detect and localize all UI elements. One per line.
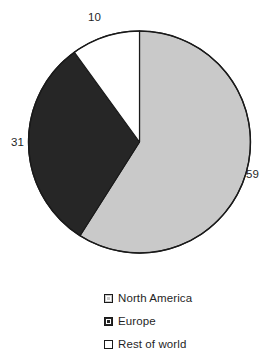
legend-label-north-america: North America xyxy=(118,292,192,305)
legend-label-rest-of-world: Rest of world xyxy=(118,338,186,351)
legend-swatch-icon-north-america xyxy=(104,294,113,303)
legend-label-europe: Europe xyxy=(118,315,156,328)
legend-item-rest-of-world: Rest of world xyxy=(104,336,254,352)
pie-svg xyxy=(0,0,273,270)
legend-item-north-america: North America xyxy=(104,290,254,306)
legend-swatch-icon-rest-of-world xyxy=(104,340,113,349)
pie-value-label-north-america: 59 xyxy=(246,168,259,181)
chart-legend: North America Europe Rest of world xyxy=(104,290,254,352)
pie-value-label-rest-of-world: 10 xyxy=(88,11,101,24)
pie-slice-group xyxy=(29,31,251,253)
pie-chart-figure: 10 31 59 North America Europe Rest of wo… xyxy=(0,0,273,359)
legend-swatch-icon-europe xyxy=(104,317,113,326)
legend-item-europe: Europe xyxy=(104,313,254,329)
pie-plot-area xyxy=(0,0,273,270)
pie-value-label-europe: 31 xyxy=(11,136,24,149)
